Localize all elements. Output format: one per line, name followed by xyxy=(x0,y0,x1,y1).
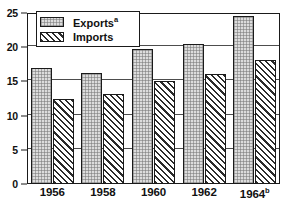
legend-swatch-exports-icon xyxy=(40,17,64,27)
bar-imports-1956 xyxy=(53,99,74,185)
bar-imports-1964 xyxy=(255,60,276,184)
y-tick-label-25: 25 xyxy=(7,7,18,19)
y-tick-label-0: 0 xyxy=(12,178,18,190)
x-tick-label-1960: 1960 xyxy=(141,186,166,198)
x-tick-superscript-1964: b xyxy=(265,186,269,195)
legend-superscript-exports: a xyxy=(114,15,118,24)
bar-exports-1964 xyxy=(233,16,254,184)
x-tick-label-1964: 1964b xyxy=(240,186,270,200)
bar-group-1964 xyxy=(233,13,276,184)
bar-exports-1956 xyxy=(31,68,52,184)
legend-label-imports: Imports xyxy=(73,31,113,43)
x-tick-label-1956: 1956 xyxy=(40,186,65,198)
bar-exports-1958 xyxy=(81,73,102,184)
y-tick-label-10: 10 xyxy=(7,110,18,122)
legend-swatch-imports-icon xyxy=(40,32,64,42)
y-tick-label-15: 15 xyxy=(7,75,18,87)
bar-chart: 0510152025 19561958196019621964b Exports… xyxy=(0,0,294,205)
y-axis: 0510152025 xyxy=(0,13,27,184)
y-tick-label-20: 20 xyxy=(7,41,18,53)
bar-imports-1958 xyxy=(103,94,124,184)
x-tick-label-1962: 1962 xyxy=(192,186,217,198)
bar-exports-1960 xyxy=(132,49,153,184)
legend-label-exports: Exportsa xyxy=(73,15,118,29)
bar-imports-1962 xyxy=(205,74,226,184)
bar-group-1962 xyxy=(183,13,226,184)
bar-exports-1962 xyxy=(183,44,204,184)
x-axis: 19561958196019621964b xyxy=(27,186,280,205)
bar-imports-1960 xyxy=(154,81,175,184)
legend-item-exports: Exportsa xyxy=(37,14,139,29)
legend-item-imports: Imports xyxy=(37,29,139,44)
y-tick-label-5: 5 xyxy=(12,144,18,156)
chart-legend: Exportsa Imports xyxy=(36,11,140,47)
x-tick-label-1958: 1958 xyxy=(90,186,115,198)
